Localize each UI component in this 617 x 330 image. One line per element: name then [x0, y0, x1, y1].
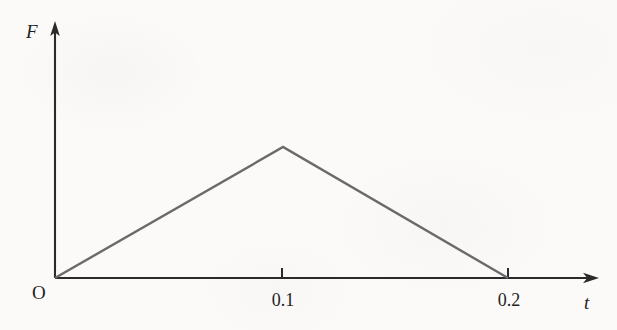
force-pulse-curve: [55, 147, 508, 278]
figure-canvas: F t O 0.1 0.2: [0, 0, 617, 330]
x-tick-label-0.1: 0.1: [272, 291, 295, 309]
force-time-plot: [0, 0, 617, 330]
y-axis-label: F: [26, 22, 38, 41]
x-tick-label-0.2: 0.2: [498, 291, 521, 309]
x-axis-label: t: [584, 293, 589, 312]
origin-label: O: [32, 283, 46, 302]
